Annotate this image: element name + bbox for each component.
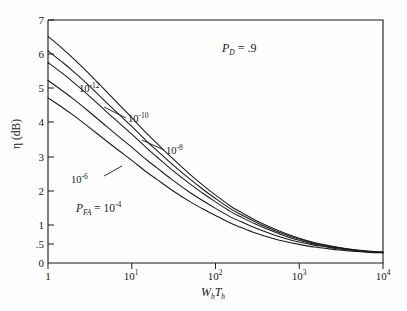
annotation-pd: PD = .9 xyxy=(222,42,257,54)
curve-10^-4 xyxy=(48,98,383,253)
curve-label-10e-8: 10-8 xyxy=(166,146,183,157)
x-tick-10e2-base: 10 xyxy=(208,270,219,282)
curve-10^-12 xyxy=(48,36,383,252)
curve-label-10e-10-base: 10 xyxy=(128,113,139,124)
x-tick-10e1-exp: 1 xyxy=(135,268,139,277)
y-tick-label-7: 7 xyxy=(22,15,44,26)
x-tick-10e4-base: 10 xyxy=(376,270,387,282)
y-tick-label-6: 6 xyxy=(22,49,44,60)
curve-label-pfa-exp: -4 xyxy=(115,200,121,209)
axis-frame xyxy=(48,20,383,263)
x-tick-label-1: 1 xyxy=(31,271,65,282)
y-tick-label-2: 2 xyxy=(22,186,44,197)
curve-label-10e-12-base: 10 xyxy=(79,83,90,94)
x-tick-label-10e4: 104 xyxy=(366,271,400,282)
curve-label-10e-8-base: 10 xyxy=(166,145,177,156)
curve-10^-6 xyxy=(48,81,383,253)
y-tick-label-4: 4 xyxy=(22,117,44,128)
y-axis-label: η (dB) xyxy=(10,104,22,164)
y-tick-label-point5: .5 xyxy=(22,239,44,250)
x-tick-10e1-base: 10 xyxy=(124,270,135,282)
x-tick-label-10e3: 103 xyxy=(282,271,316,282)
x-axis-label: WhTh xyxy=(168,285,258,300)
y-tick-label-1: 1 xyxy=(22,220,44,231)
curve-label-pfa-eq: = 10 xyxy=(91,202,115,214)
annotation-pd-value: = .9 xyxy=(235,41,257,55)
curve-label-10e-6-base: 10 xyxy=(71,174,82,185)
curve-label-pfa-sub: FA xyxy=(83,208,91,217)
data-curves xyxy=(48,36,383,252)
curve-label-10e-10: 10-10 xyxy=(128,114,149,125)
y-tick-label-0: 0 xyxy=(22,258,44,269)
curve-label-10e-6: 10-6 xyxy=(71,175,88,186)
x-axis-label-w: W xyxy=(201,285,211,299)
x-tick-10e2-exp: 2 xyxy=(219,268,223,277)
curve-label-pfa-10e-4: PFA = 10-4 xyxy=(76,203,121,215)
y-axis-label-eta: η xyxy=(10,143,22,149)
curve-label-10e-8-exp: -8 xyxy=(177,143,183,152)
x-tick-1-base: 1 xyxy=(45,270,51,282)
x-axis-ticks xyxy=(48,263,383,269)
curve-label-10e-10-exp: -10 xyxy=(139,111,149,120)
y-tick-label-5: 5 xyxy=(22,83,44,94)
x-tick-10e4-exp: 4 xyxy=(387,268,391,277)
x-tick-label-10e2: 102 xyxy=(198,271,232,282)
chart-figure: 7 6 5 4 3 2 1 .5 0 1 101 102 103 104 η (… xyxy=(0,0,407,311)
curve-label-10e-12: 10-12 xyxy=(79,84,100,95)
curve-label-pfa-symbol: P xyxy=(76,202,83,214)
curve-label-10e-12-exp: -12 xyxy=(90,81,100,90)
y-axis-label-units: (dB) xyxy=(10,119,22,143)
x-axis-label-t-sub: h xyxy=(221,292,225,301)
x-tick-label-10e1: 101 xyxy=(114,271,148,282)
chart-plot-area xyxy=(0,0,407,311)
curve-label-10e-6-exp: -6 xyxy=(82,172,88,181)
x-tick-10e3-base: 10 xyxy=(292,270,303,282)
y-tick-label-3: 3 xyxy=(22,152,44,163)
x-tick-10e3-exp: 3 xyxy=(303,268,307,277)
